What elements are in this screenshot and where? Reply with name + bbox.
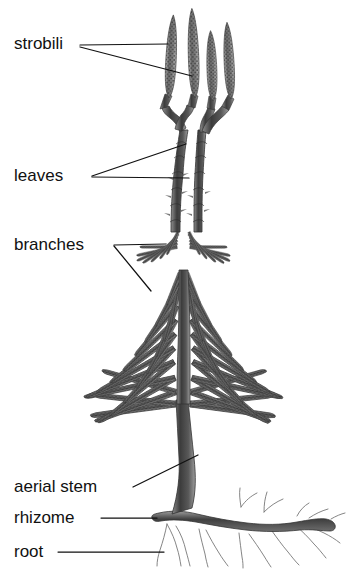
leader-branches-1 xyxy=(114,244,166,245)
label-branches: branches xyxy=(14,235,84,254)
diagram-canvas: strobili leaves branches aerial stem rhi… xyxy=(0,0,346,569)
plant-illustration xyxy=(84,8,345,568)
aerial-stem-structure xyxy=(172,400,195,514)
lycopodium-figure: strobili leaves branches aerial stem rhi… xyxy=(0,0,346,569)
strobili-group xyxy=(164,8,236,101)
leader-leaves-1 xyxy=(92,144,186,176)
rhizome-structure xyxy=(152,511,335,531)
leader-strobili-1 xyxy=(80,44,168,45)
leafy-stems xyxy=(164,130,211,232)
label-root: root xyxy=(14,542,44,561)
label-leaves: leaves xyxy=(14,166,63,185)
label-aerial-stem: aerial stem xyxy=(14,477,97,496)
label-strobili: strobili xyxy=(14,34,63,53)
upper-branch-whorl xyxy=(136,231,230,264)
label-rhizome: rhizome xyxy=(14,508,74,527)
mid-stem xyxy=(177,270,190,404)
labels-group: strobili leaves branches aerial stem rhi… xyxy=(14,34,97,561)
strobilus-stalks xyxy=(160,94,234,134)
